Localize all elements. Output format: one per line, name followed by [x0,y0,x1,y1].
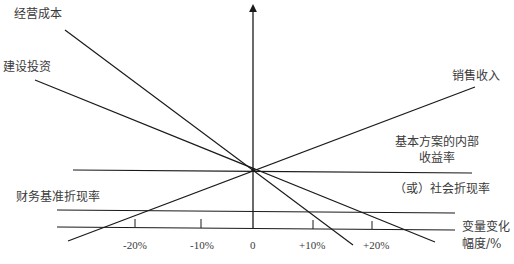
sensitivity-diagram [0,0,514,264]
social-rate-label: （或）社会折现率 [394,182,490,196]
benchmark-rate-label: 财务基准折现率 [16,190,100,204]
benchmark-rate-line [57,210,455,213]
tick-label-plus20: +20% [363,239,389,251]
center-point [251,168,255,172]
irr-label-line2: 收益率 [388,151,486,165]
irr-line [73,170,472,173]
construction-investment-label: 建设投资 [3,60,51,74]
tick-label-zero: 0 [250,239,256,251]
sales-revenue-label: 销售收入 [452,69,500,83]
tick-label-minus20: -20% [123,239,147,251]
construction-investment-line [35,80,435,242]
tick-label-plus10: +10% [299,239,325,251]
tick-label-minus10: -10% [190,239,214,251]
operating-cost-label: 经营成本 [14,7,62,21]
operating-cost-line [65,30,353,245]
irr-label-line1: 基本方案的内部 [388,135,486,149]
x-axis-label-line2: 幅度/% [462,237,501,251]
x-axis [57,227,455,230]
x-axis-label-line1: 变量变化 [462,220,510,234]
